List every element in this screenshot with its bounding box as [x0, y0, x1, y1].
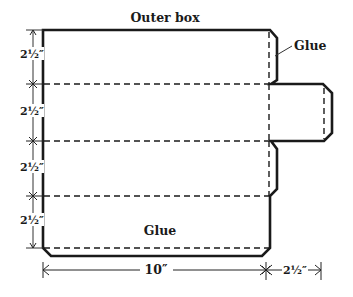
dim-row-2: 2½″: [20, 105, 44, 118]
glue-bottom-label: Glue: [144, 223, 177, 238]
bottom-dimension: [43, 262, 321, 280]
outer-box-diagram: Outer box Glue Glue 2½″ 2½″ 2½″ 2½″: [0, 0, 353, 297]
dim-width: 10″: [145, 262, 168, 277]
dim-row-4: 2½″: [20, 214, 44, 227]
box-outline: [43, 30, 332, 256]
glue-side-label: Glue: [294, 38, 327, 53]
dim-row-3: 2½″: [20, 161, 44, 174]
title-label: Outer box: [130, 10, 200, 25]
dim-flap-width: 2½″: [283, 264, 307, 277]
dim-row-1: 2½″: [20, 48, 44, 61]
